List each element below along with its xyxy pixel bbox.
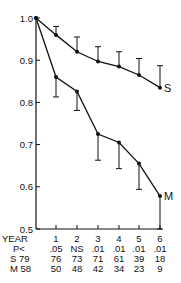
data-point: [54, 33, 58, 37]
y-tick-label: 0.8: [20, 97, 33, 108]
series-label-S: S: [164, 82, 171, 94]
data-point: [137, 162, 141, 166]
series-line-M: [36, 18, 160, 196]
data-table: YEAR123456P<.05NS.01.01.01.01S 797673716…: [2, 233, 167, 274]
data-point: [75, 89, 79, 93]
row-value: 50: [51, 263, 62, 274]
data-point: [137, 73, 141, 77]
y-tick-label: 1.0: [20, 13, 33, 24]
data-point: [96, 59, 100, 63]
row-value: 9: [157, 263, 162, 274]
y-tick-label: 0.6: [20, 181, 33, 192]
data-point: [158, 194, 162, 198]
data-point: [117, 140, 121, 144]
series: SM: [34, 16, 173, 229]
data-point: [117, 65, 121, 69]
row-value: 48: [72, 263, 83, 274]
data-point: [75, 50, 79, 54]
series-label-M: M: [164, 190, 173, 202]
data-point: [96, 132, 100, 136]
data-point: [158, 86, 162, 90]
row-value: 23: [134, 263, 145, 274]
data-point: [54, 75, 58, 79]
row-value: 34: [114, 263, 125, 274]
row-value: 42: [93, 263, 104, 274]
y-tick-label: 0.9: [20, 55, 33, 66]
row-label: M 58: [10, 263, 31, 274]
data-point: [34, 16, 38, 20]
y-tick-label: 0.7: [20, 139, 33, 150]
survival-chart: 1.00.90.80.70.60.5 SM YEAR123456P<.05NS.…: [0, 0, 181, 283]
axes: 1.00.90.80.70.60.5: [20, 13, 162, 235]
